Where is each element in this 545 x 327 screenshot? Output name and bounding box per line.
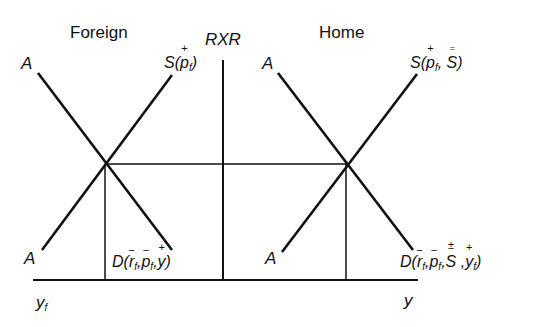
home-a-label-bottom: A [265,250,276,267]
home-output-axis-label: y [404,292,413,309]
home-demand-label: D(−rf,−pf,±S ,+yf) [400,254,481,272]
foreign-supply-label: S(+pf) [164,55,197,73]
foreign-a-label-bottom: A [24,250,35,267]
foreign-a-label-top: A [21,55,32,72]
home-panel-title: Home [319,24,364,41]
foreign-panel-title: Foreign [70,24,128,41]
diagram-canvas [0,0,545,327]
home-supply-label: S(+pf, =S) [410,55,463,73]
home-a-label-top: A [262,55,273,72]
home-supply-curve [282,74,417,252]
rxr-axis-label: RXR [205,31,241,48]
foreign-demand-label: D(−rf,−pf,+y) [112,254,171,272]
foreign-output-axis-label: yf [36,294,47,313]
